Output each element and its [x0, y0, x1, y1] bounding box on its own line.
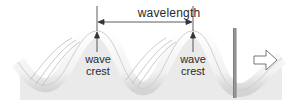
wave-diagram: wavelength wave crest wave crest [0, 0, 296, 111]
wavelength-label: wavelength [124, 7, 214, 19]
wave-body [18, 31, 282, 90]
crest-label-1: wave crest [80, 53, 116, 77]
barrier-bar [233, 28, 237, 98]
crest-label-2: wave crest [175, 53, 211, 77]
